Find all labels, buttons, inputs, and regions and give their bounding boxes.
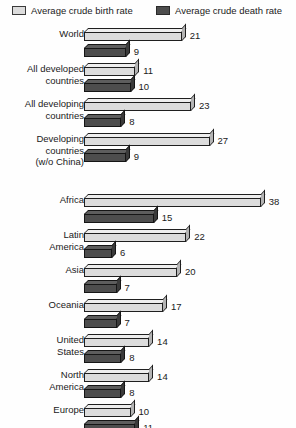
bar-face-front (84, 284, 117, 293)
bar-face-front (84, 137, 210, 146)
bar-birth (84, 233, 186, 242)
bar-birth (84, 338, 149, 347)
bar-value-birth: 27 (218, 135, 229, 146)
category-label: All developedcountries (0, 63, 84, 86)
bar-face-side (261, 190, 265, 207)
bar-birth (84, 408, 131, 417)
category-label: Asia (0, 264, 84, 276)
bar-value-birth: 10 (139, 406, 150, 417)
category-label-line: World (0, 28, 84, 40)
category-label-line: All developing (0, 98, 84, 110)
bar-face-side (121, 346, 125, 363)
legend-label-death-rate: Average crude death rate (175, 5, 282, 16)
bar-face-side (177, 260, 181, 277)
bar-face-side (126, 145, 130, 162)
bar-face-side (131, 400, 135, 417)
bar-face-front (84, 83, 131, 92)
bar-face-front (84, 338, 149, 347)
category-label: All developingcountries (0, 98, 84, 121)
bar-death (84, 48, 126, 57)
category-label-line: America (0, 241, 84, 253)
bar-value-death: 11 (143, 422, 153, 428)
bar-value-birth: 14 (157, 371, 168, 382)
legend-item-birth-rate: Average crude birth rate (12, 5, 133, 16)
category-label: World (0, 28, 84, 40)
bar-value-death: 7 (125, 282, 130, 293)
category-label: UnitedStates (0, 334, 84, 357)
category-label-line: Developing (0, 133, 84, 145)
bar-value-birth: 14 (157, 336, 168, 347)
category-label-line: countries (0, 75, 84, 87)
bar-value-death: 8 (129, 352, 134, 363)
bar-birth (84, 303, 163, 312)
bar-face-front (84, 198, 261, 207)
category-label-line: (w/o China) (0, 156, 84, 168)
bar-face-side (191, 94, 195, 111)
bar-death (84, 319, 117, 328)
bar-death (84, 249, 112, 258)
bar-value-birth: 17 (171, 301, 182, 312)
bar-value-death: 7 (125, 317, 130, 328)
bar-face-front (84, 408, 131, 417)
bar-value-death: 8 (129, 387, 134, 398)
category-label: Europe (0, 404, 84, 416)
category-label-line: North (0, 369, 84, 381)
legend-label-birth-rate: Average crude birth rate (31, 5, 133, 16)
bar-death (84, 214, 154, 223)
bar-face-side (126, 40, 130, 57)
legend-item-death-rate: Average crude death rate (156, 5, 282, 16)
bar-face-side (135, 416, 139, 428)
category-label-line: countries (0, 110, 84, 122)
category-label: Developingcountries(w/o China) (0, 133, 84, 168)
light-swatch-icon (12, 6, 26, 15)
category-label-line: Asia (0, 264, 84, 276)
bar-face-side (149, 365, 153, 382)
bar-face-front (84, 233, 186, 242)
category-label: LatinAmerica (0, 229, 84, 252)
category-label-line: countries (0, 145, 84, 157)
bar-value-death: 8 (129, 116, 134, 127)
bar-face-front (84, 48, 126, 57)
bar-value-birth: 22 (194, 231, 205, 242)
bar-value-birth: 20 (185, 266, 196, 277)
bar-value-birth: 38 (269, 196, 280, 207)
bar-value-death: 9 (134, 46, 139, 57)
bar-face-side (117, 276, 121, 293)
bar-value-birth: 11 (143, 65, 153, 76)
category-label-line: Oceania (0, 299, 84, 311)
bar-birth (84, 102, 191, 111)
bar-face-front (84, 424, 135, 428)
bar-value-death: 10 (139, 81, 150, 92)
bar-face-front (84, 102, 191, 111)
bar-value-death: 15 (162, 212, 173, 223)
bar-face-side (135, 59, 139, 76)
bar-death (84, 389, 121, 398)
bar-face-side (182, 24, 186, 41)
bar-face-front (84, 249, 112, 258)
bar-death (84, 118, 121, 127)
bar-value-birth: 21 (190, 30, 201, 41)
category-label: Africa (0, 194, 84, 206)
bar-face-front (84, 373, 149, 382)
bar-face-side (117, 311, 121, 328)
category-label: Oceania (0, 299, 84, 311)
bar-face-side (131, 75, 135, 92)
bar-death (84, 354, 121, 363)
bar-face-side (163, 295, 167, 312)
bar-face-side (121, 381, 125, 398)
bar-face-front (84, 118, 121, 127)
bar-face-front (84, 214, 154, 223)
category-label-line: Latin (0, 229, 84, 241)
bar-face-side (186, 225, 190, 242)
bar-birth (84, 373, 149, 382)
bar-value-death: 6 (120, 247, 125, 258)
bar-face-front (84, 153, 126, 162)
bar-face-front (84, 268, 177, 277)
bar-face-side (121, 110, 125, 127)
bar-face-front (84, 32, 182, 41)
bar-birth (84, 268, 177, 277)
chart-legend: Average crude birth rate Average crude d… (0, 5, 296, 23)
category-label-line: All developed (0, 63, 84, 75)
dark-swatch-icon (156, 6, 170, 15)
bar-death (84, 424, 135, 428)
